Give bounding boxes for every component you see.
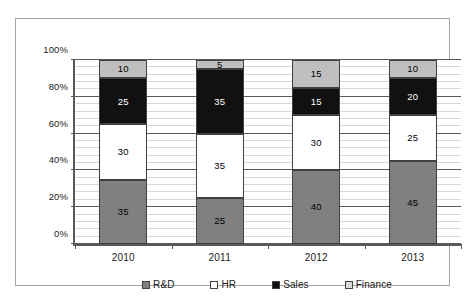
bar-group: 45252010 — [365, 60, 462, 244]
x-axis-tick-label: 2012 — [305, 252, 328, 263]
bar-segment[interactable]: 30 — [99, 124, 147, 179]
legend-item-label: Finance — [356, 279, 392, 290]
bar-segment[interactable]: 35 — [196, 134, 244, 198]
bar-segment-label: 20 — [407, 92, 418, 102]
legend-item-label: R&D — [153, 279, 174, 290]
bar-segment-label: 15 — [311, 69, 322, 79]
x-axis-tick-mark — [365, 244, 366, 249]
bar-group: 40301515 — [268, 60, 365, 244]
bar-segment-label: 10 — [118, 64, 129, 74]
bar-segment[interactable]: 25 — [196, 198, 244, 244]
plot-area: 100%80%60%40%20%0% 353025102535355403015… — [73, 60, 461, 246]
bar-segment-label: 35 — [118, 207, 129, 217]
x-axis-tick-mark — [268, 244, 269, 249]
y-axis-tick-label: 100% — [43, 44, 68, 55]
chart-legend: R&DHRSalesFinance — [73, 279, 461, 290]
bar-segment-label: 30 — [311, 138, 322, 148]
x-axis-tick-label: 2010 — [112, 252, 135, 263]
chart-border: 100%80%60%40%20%0% 353025102535355403015… — [15, 18, 450, 286]
bar-segment[interactable]: 15 — [292, 60, 340, 88]
bar-group: 35302510 — [75, 60, 172, 244]
legend-item[interactable]: Finance — [345, 279, 392, 290]
bar-segment-label: 40 — [311, 202, 322, 212]
bar-segment[interactable]: 35 — [196, 69, 244, 133]
bar-segment[interactable]: 10 — [99, 60, 147, 78]
bar-segment-label: 35 — [214, 97, 225, 107]
stacked-bar[interactable]: 35302510 — [99, 60, 147, 244]
bar-segment[interactable]: 40 — [292, 170, 340, 244]
y-axis-tick-label: 80% — [49, 80, 68, 91]
legend-item-label: Sales — [283, 279, 309, 290]
x-axis-tick-mark — [75, 244, 76, 249]
bar-segment[interactable]: 25 — [389, 115, 437, 161]
y-axis-tick-label: 0% — [54, 228, 68, 239]
stacked-bar[interactable]: 45252010 — [389, 60, 437, 244]
bar-segment[interactable]: 5 — [196, 60, 244, 69]
bar-segment[interactable]: 10 — [389, 60, 437, 78]
bar-segment-label: 10 — [407, 64, 418, 74]
stacked-bar[interactable]: 40301515 — [292, 60, 340, 244]
bar-segment-label: 35 — [214, 161, 225, 171]
bar-group: 2535355 — [172, 60, 269, 244]
x-axis-tick-mark — [172, 244, 173, 249]
legend-swatch-icon — [142, 281, 150, 289]
chart-container: 100%80%60%40%20%0% 353025102535355403015… — [0, 0, 465, 302]
legend-swatch-icon — [210, 281, 218, 289]
legend-item[interactable]: R&D — [142, 279, 174, 290]
legend-swatch-icon — [272, 281, 280, 289]
bar-segment-label: 5 — [217, 60, 222, 69]
bar-segment[interactable]: 20 — [389, 78, 437, 115]
bar-segment[interactable]: 35 — [99, 180, 147, 244]
x-axis-tick-mark — [461, 244, 462, 249]
y-axis-tick-label: 60% — [49, 117, 68, 128]
y-axis-tick-label: 40% — [49, 154, 68, 165]
bar-segment[interactable]: 15 — [292, 88, 340, 116]
x-axis-tick-label: 2011 — [209, 252, 231, 263]
bar-segment-label: 45 — [407, 198, 418, 208]
legend-item-label: HR — [221, 279, 236, 290]
legend-item[interactable]: Sales — [272, 279, 309, 290]
bar-segment[interactable]: 45 — [389, 161, 437, 244]
bar-segment-label: 30 — [118, 147, 129, 157]
bar-segment-label: 25 — [214, 216, 225, 226]
legend-item[interactable]: HR — [210, 279, 236, 290]
bar-segment-label: 25 — [118, 97, 129, 107]
bar-segment-label: 15 — [311, 97, 322, 107]
x-axis-tick-label: 2013 — [401, 252, 424, 263]
stacked-bar[interactable]: 2535355 — [196, 60, 244, 244]
bar-segment-label: 25 — [407, 133, 418, 143]
bar-segment[interactable]: 30 — [292, 115, 340, 170]
y-axis-tick-label: 20% — [49, 191, 68, 202]
legend-swatch-icon — [345, 281, 353, 289]
bar-segment[interactable]: 25 — [99, 78, 147, 124]
